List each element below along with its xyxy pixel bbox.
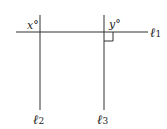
line-l2-label: ℓ2 [33,112,44,127]
angle-y-label: y° [108,18,121,31]
line-l3-label: ℓ3 [97,112,108,127]
right-angle-marker [104,32,113,41]
line-l1-label: ℓ1 [150,25,161,40]
diagram-canvas: x° y° ℓ1 ℓ2 ℓ3 [0,0,167,129]
angle-x-label: x° [27,19,39,32]
